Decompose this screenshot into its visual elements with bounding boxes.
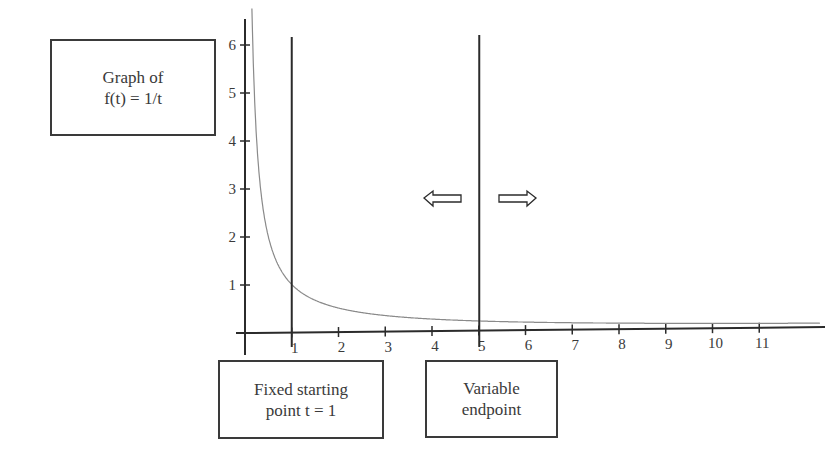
y-tick-label: 3 — [229, 181, 237, 197]
fixed-start-line2: point t = 1 — [254, 400, 348, 421]
x-tick-label: 8 — [618, 336, 626, 352]
arrow-right-icon — [499, 191, 536, 206]
x-axis — [236, 327, 825, 333]
x-tick-label: 7 — [572, 337, 580, 353]
arrow-left-icon — [424, 191, 461, 206]
variable-endpoint-line1: Variable — [462, 378, 522, 399]
plot-area: 1234561234567891011 — [0, 0, 836, 465]
x-tick-label: 2 — [338, 339, 346, 355]
x-tick-label: 3 — [385, 339, 393, 355]
y-tick-label: 5 — [229, 85, 237, 101]
x-tick-label: 11 — [755, 335, 769, 351]
y-tick-label: 2 — [229, 229, 237, 245]
fixed-start-box: Fixed starting point t = 1 — [218, 360, 384, 439]
x-tick-label: 4 — [431, 338, 439, 354]
fixed-start-line1: Fixed starting — [254, 379, 348, 400]
x-tick-label: 6 — [525, 337, 533, 353]
x-tick-label: 10 — [708, 335, 723, 351]
variable-endpoint-line2: endpoint — [462, 399, 522, 420]
y-tick-label: 4 — [229, 133, 237, 149]
curve-1-over-t — [252, 9, 820, 324]
x-tick-label: 9 — [665, 336, 673, 352]
y-tick-label: 6 — [229, 37, 237, 53]
y-tick-label: 1 — [229, 277, 237, 293]
variable-endpoint-box: Variable endpoint — [425, 360, 558, 438]
